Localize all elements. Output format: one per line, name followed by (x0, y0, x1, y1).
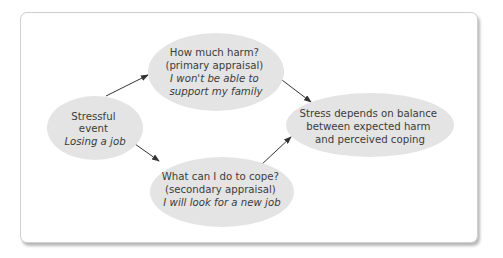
arrow-event-to-primary (106, 75, 148, 96)
node-label: event (79, 123, 108, 134)
node-label: (primary appraisal) (165, 60, 263, 71)
svg-text:Stress depends on balance: Stress depends on balance between expect… (300, 108, 441, 145)
node-secondary-appraisal: What can I do to cope? (secondary apprai… (150, 157, 294, 227)
node-label: What can I do to cope? (162, 171, 279, 182)
node-example: support my family (170, 86, 264, 97)
arrow-secondary-to-outcome (260, 137, 291, 166)
node-example: Losing a job (64, 136, 125, 147)
appraisal-diagram: Stressful event Losing a job How much ha… (0, 0, 503, 258)
node-label: Stressful (71, 111, 115, 122)
svg-text:What can I do to cope? (: What can I do to cope? (secondary apprai… (162, 171, 282, 208)
arrow-event-to-secondary (135, 144, 159, 161)
node-primary-appraisal: How much harm? (primary appraisal) I won… (148, 33, 284, 111)
node-label: Stress depends on balance (300, 108, 438, 119)
node-ellipse (148, 33, 284, 111)
arrow-primary-to-outcome (282, 80, 311, 102)
node-example: I won't be able to (170, 73, 259, 84)
node-label: (secondary appraisal) (165, 184, 276, 195)
node-outcome: Stress depends on balance between expect… (286, 93, 454, 157)
node-stressful-event: Stressful event Losing a job (47, 96, 143, 160)
node-label: between expected harm (306, 121, 430, 132)
node-example: I will look for a new job (163, 197, 280, 208)
node-label: and perceived coping (315, 134, 425, 145)
node-label: How much harm? (170, 47, 259, 58)
